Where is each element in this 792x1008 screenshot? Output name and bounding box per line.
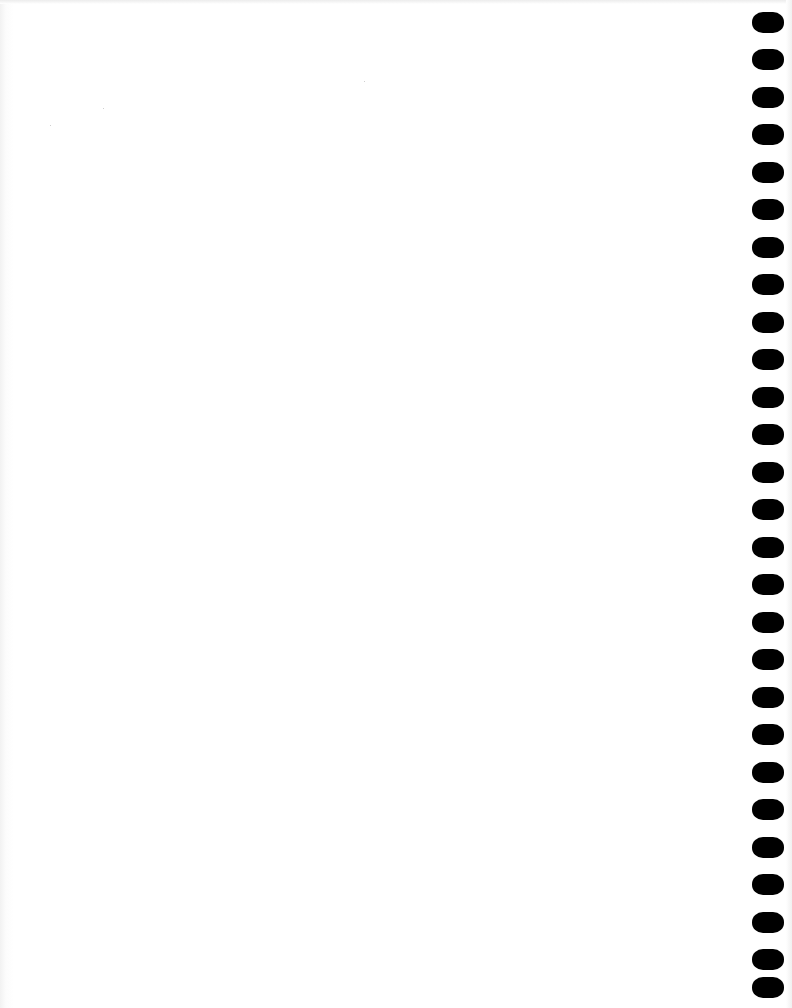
punch-hole (752, 724, 784, 745)
punch-hole (752, 387, 784, 408)
punch-hole (752, 649, 784, 670)
blank-page (0, 0, 792, 1008)
punch-hole (752, 274, 784, 295)
punch-hole (752, 162, 784, 183)
punch-hole (752, 949, 784, 970)
punch-hole (752, 537, 784, 558)
punch-hole (752, 199, 784, 220)
punched-holes-column (0, 0, 792, 1008)
punch-hole (752, 762, 784, 783)
punch-hole (752, 237, 784, 258)
punch-hole (752, 837, 784, 858)
punch-hole (752, 874, 784, 895)
punch-hole (752, 312, 784, 333)
punch-hole (752, 499, 784, 520)
punch-hole (752, 799, 784, 820)
punch-hole (752, 574, 784, 595)
punch-hole (752, 424, 784, 445)
punch-hole (752, 124, 784, 145)
punch-hole (752, 977, 784, 998)
punch-hole (752, 462, 784, 483)
punch-hole (752, 912, 784, 933)
punch-hole (752, 349, 784, 370)
punch-hole (752, 12, 784, 33)
punch-hole (752, 49, 784, 70)
punch-hole (752, 87, 784, 108)
punch-hole (752, 612, 784, 633)
punch-hole (752, 687, 784, 708)
